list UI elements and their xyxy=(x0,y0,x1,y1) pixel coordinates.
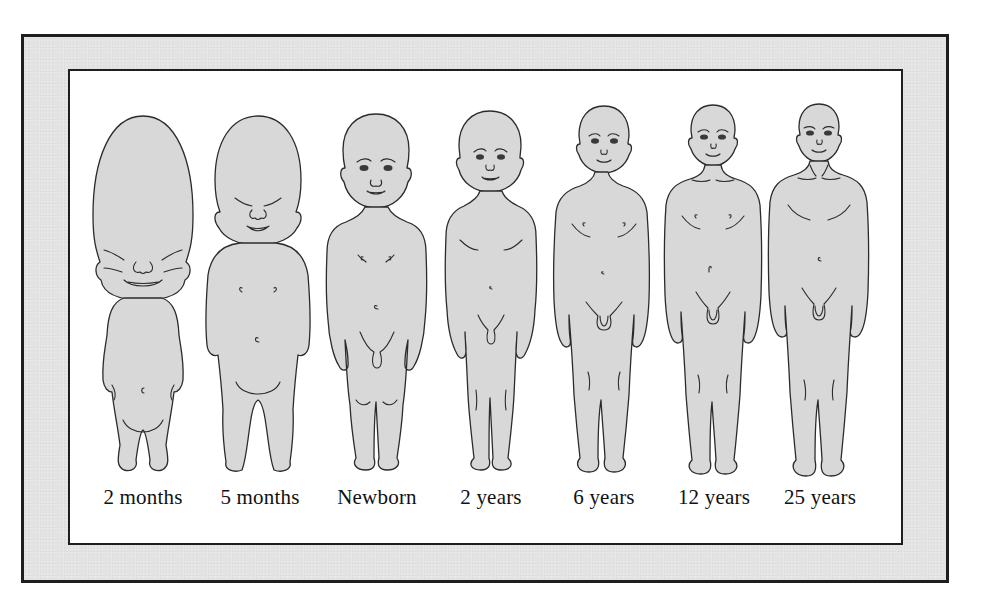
stage-label-5-months: 5 months xyxy=(220,485,299,510)
figures-illustration xyxy=(0,0,982,613)
figure-5-months xyxy=(206,116,310,471)
figure-newborn xyxy=(326,114,426,470)
figure-2-months xyxy=(93,116,193,471)
stage-label-12-years: 12 years xyxy=(678,485,750,510)
figure-6-years xyxy=(554,106,650,472)
stage-label-newborn: Newborn xyxy=(337,485,417,510)
stage-label-6-years: 6 years xyxy=(573,485,634,510)
stage-label-25-years: 25 years xyxy=(784,485,856,510)
figure-25-years xyxy=(768,104,868,476)
stage-label-2-months: 2 months xyxy=(103,485,182,510)
figure-2-years xyxy=(445,111,536,470)
figure-12-years xyxy=(664,105,761,474)
stage-label-2-years: 2 years xyxy=(460,485,521,510)
